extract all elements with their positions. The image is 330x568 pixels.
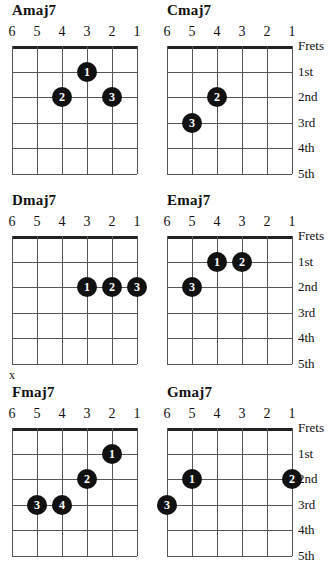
- chord-title: Fmaj7: [12, 384, 55, 401]
- string-number-1: 1: [134, 405, 141, 423]
- string-line-2: [267, 428, 268, 556]
- fret-line-1: [167, 454, 292, 455]
- nut-line: [12, 46, 137, 49]
- string-number-4: 4: [214, 405, 221, 423]
- fret-line-1: [167, 262, 292, 263]
- finger-dot: 3: [102, 87, 122, 107]
- string-number-3: 3: [84, 213, 91, 231]
- chord-title: Emaj7: [167, 192, 211, 209]
- fret-label-4: 4th: [298, 331, 315, 345]
- fret-label-column: Frets1st2nd3rd4th5th: [298, 236, 330, 364]
- string-line-5: [192, 46, 193, 174]
- chord-diagram-cmaj7: Cmaj765432123Frets1st2nd3rd4th5th: [155, 0, 320, 190]
- string-line-6: [12, 428, 13, 556]
- fret-label-3: 3rd: [298, 306, 315, 320]
- nut-line: [167, 46, 292, 49]
- string-number-6: 6: [9, 213, 16, 231]
- fretboard-grid: 123: [12, 46, 137, 174]
- string-number-6: 6: [9, 23, 16, 41]
- string-number-row: 654321: [12, 405, 137, 423]
- string-line-5: [37, 46, 38, 174]
- fret-line-1: [12, 72, 137, 73]
- fret-line-5: [12, 556, 137, 557]
- finger-dot: 2: [207, 87, 227, 107]
- string-line-2: [112, 46, 113, 174]
- string-number-row: 654321: [12, 23, 137, 41]
- fret-label-3: 3rd: [298, 116, 315, 130]
- string-line-4: [217, 46, 218, 174]
- chord-diagram-fmaj7: Fmaj7654321x1234: [0, 382, 165, 568]
- string-line-4: [217, 428, 218, 556]
- finger-dot: 1: [102, 444, 122, 464]
- string-number-5: 5: [34, 23, 41, 41]
- string-number-6: 6: [164, 213, 171, 231]
- finger-dot: 1: [77, 62, 97, 82]
- string-number-4: 4: [59, 23, 66, 41]
- string-number-3: 3: [239, 213, 246, 231]
- finger-dot: 2: [77, 469, 97, 489]
- fret-line-2: [12, 479, 137, 480]
- string-number-4: 4: [59, 213, 66, 231]
- string-number-row: 654321: [167, 23, 292, 41]
- finger-dot: 2: [52, 87, 72, 107]
- string-number-1: 1: [289, 405, 296, 423]
- fret-line-4: [167, 530, 292, 531]
- string-line-2: [267, 46, 268, 174]
- chord-diagram-emaj7: Emaj7654321123Frets1st2nd3rd4th5th: [155, 190, 320, 380]
- string-number-2: 2: [264, 405, 271, 423]
- fret-label-2: 2nd: [298, 280, 318, 294]
- string-line-1: [292, 236, 293, 364]
- string-line-5: [192, 428, 193, 556]
- finger-dot: 3: [157, 495, 177, 515]
- string-line-1: [137, 428, 138, 556]
- fret-line-5: [12, 174, 137, 175]
- fret-line-4: [167, 148, 292, 149]
- string-number-1: 1: [134, 23, 141, 41]
- string-number-3: 3: [239, 23, 246, 41]
- fret-label-3: 3rd: [298, 498, 315, 512]
- fret-label-0: Frets: [298, 229, 324, 243]
- mute-marker: x: [9, 368, 15, 383]
- fret-line-5: [167, 364, 292, 365]
- fret-line-3: [167, 313, 292, 314]
- fret-line-5: [12, 364, 137, 365]
- string-number-row: 654321: [167, 213, 292, 231]
- string-number-row: 654321: [167, 405, 292, 423]
- fretboard-grid: 23: [167, 46, 292, 174]
- fret-label-column: Frets1st2nd3rd4th5th: [298, 46, 330, 174]
- string-line-4: [62, 46, 63, 174]
- string-number-1: 1: [289, 23, 296, 41]
- string-line-4: [62, 236, 63, 364]
- fretboard-grid: 123: [167, 428, 292, 556]
- string-number-2: 2: [109, 23, 116, 41]
- string-line-1: [292, 46, 293, 174]
- fret-label-2: 2nd: [298, 90, 318, 104]
- fretboard-grid: 1234: [12, 428, 137, 556]
- nut-line: [12, 428, 137, 431]
- fret-line-4: [12, 148, 137, 149]
- string-line-6: [167, 46, 168, 174]
- finger-dot: 1: [207, 252, 227, 272]
- string-number-5: 5: [189, 23, 196, 41]
- finger-dot: 4: [52, 495, 72, 515]
- fret-line-4: [167, 338, 292, 339]
- fret-label-1: 1st: [298, 255, 313, 269]
- string-number-4: 4: [214, 23, 221, 41]
- nut-line: [167, 428, 292, 431]
- string-line-1: [292, 428, 293, 556]
- string-line-4: [62, 428, 63, 556]
- string-number-row: 654321: [12, 213, 137, 231]
- string-number-5: 5: [189, 213, 196, 231]
- chord-diagram-amaj7: Amaj7654321123: [0, 0, 165, 190]
- fret-line-4: [12, 530, 137, 531]
- string-number-3: 3: [84, 405, 91, 423]
- string-number-1: 1: [289, 213, 296, 231]
- finger-dot: 3: [27, 495, 47, 515]
- chord-title: Gmaj7: [167, 384, 212, 401]
- fret-label-0: Frets: [298, 39, 324, 53]
- chord-title: Dmaj7: [12, 192, 56, 209]
- fret-label-column: Frets1st2nd3rd4th5th: [298, 428, 330, 556]
- string-number-5: 5: [34, 213, 41, 231]
- string-number-3: 3: [84, 23, 91, 41]
- chord-title: Amaj7: [12, 2, 56, 19]
